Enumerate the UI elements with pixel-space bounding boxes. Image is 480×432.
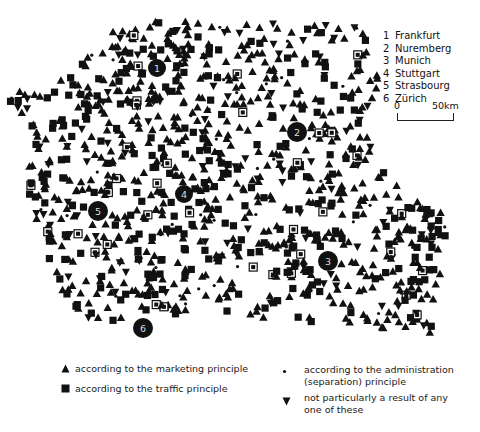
boxed-square-icon	[293, 159, 301, 167]
square-icon	[314, 278, 321, 285]
city-name-munich: Munich	[395, 55, 431, 68]
triangle-up-icon	[45, 156, 53, 164]
triangle-up-icon	[140, 169, 148, 177]
square-icon	[77, 250, 84, 257]
square-icon	[430, 266, 437, 273]
triangle-up-icon	[255, 120, 263, 128]
triangle-up-icon	[290, 50, 298, 58]
triangle-up-icon	[58, 134, 66, 142]
square-icon	[347, 94, 354, 101]
dot-icon	[282, 364, 304, 374]
square-icon	[206, 50, 213, 57]
square-icon	[292, 259, 299, 266]
triangle-up-icon	[211, 195, 219, 203]
square-icon	[395, 265, 402, 272]
triangle-up-icon	[202, 291, 210, 299]
triangle-up-icon	[100, 232, 108, 240]
triangle-down-icon	[122, 269, 130, 277]
triangle-down-icon	[327, 271, 335, 279]
triangle-up-icon	[224, 72, 232, 80]
legend-label: according to the marketing principle	[75, 363, 248, 375]
triangle-up-icon	[154, 112, 162, 120]
triangle-up-icon	[83, 234, 91, 242]
city-marker-strasbourg: 5	[88, 201, 108, 221]
triangle-up-icon	[80, 140, 88, 148]
square-icon	[105, 181, 112, 188]
dot-icon	[256, 167, 259, 170]
triangle-up-icon	[332, 274, 340, 282]
square-icon	[134, 247, 141, 254]
square-icon	[152, 164, 159, 171]
triangle-up-icon	[133, 112, 141, 120]
triangle-down-icon	[104, 89, 112, 97]
square-icon	[276, 226, 283, 233]
triangle-up-icon	[368, 283, 376, 291]
square-icon	[171, 213, 178, 220]
square-icon	[347, 309, 354, 316]
square-icon	[104, 160, 111, 167]
square-icon	[273, 268, 280, 275]
triangle-up-icon	[188, 154, 196, 162]
square-icon	[126, 49, 133, 56]
dot-icon	[39, 208, 42, 211]
triangle-up-icon	[279, 124, 287, 132]
dot-icon	[319, 180, 322, 183]
triangle-up-icon	[344, 281, 352, 289]
dot-icon	[411, 246, 414, 249]
triangle-up-icon	[226, 193, 234, 201]
square-icon	[382, 269, 389, 276]
city-key-row: 4Stuttgart	[383, 68, 451, 81]
square-icon	[295, 314, 302, 321]
square-icon	[289, 285, 296, 292]
triangle-up-icon	[368, 271, 376, 279]
square-icon	[362, 37, 369, 44]
square-icon	[426, 254, 433, 261]
triangle-up-icon	[158, 206, 166, 214]
square-icon	[355, 120, 362, 127]
square-icon	[277, 143, 284, 150]
triangle-down-icon	[83, 158, 91, 166]
square-icon	[46, 255, 53, 262]
triangle-down-icon	[104, 140, 112, 148]
square-icon	[284, 54, 291, 61]
square-icon	[118, 69, 125, 76]
square-icon	[304, 291, 311, 298]
square-icon	[241, 202, 248, 209]
triangle-down-icon	[223, 240, 231, 248]
triangle-up-icon	[290, 114, 298, 122]
square-icon	[201, 179, 208, 186]
city-name-strasbourg: Strasbourg	[395, 80, 450, 93]
triangle-up-icon	[258, 83, 266, 91]
triangle-up-icon	[338, 210, 346, 218]
triangle-up-icon	[233, 179, 241, 187]
square-icon	[321, 75, 328, 82]
square-icon	[158, 256, 165, 263]
dot-icon	[280, 76, 283, 79]
square-icon	[180, 69, 187, 76]
triangle-up-icon	[254, 147, 262, 155]
square-icon	[188, 221, 195, 228]
square-icon	[428, 222, 435, 229]
triangle-up-icon	[57, 214, 65, 222]
square-icon	[109, 317, 116, 324]
city-marker-zurich: 6	[133, 318, 153, 338]
square-icon	[207, 97, 214, 104]
square-icon	[117, 100, 124, 107]
triangle-down-icon	[64, 274, 72, 282]
triangle-up-icon	[283, 79, 291, 87]
triangle-up-icon	[103, 126, 111, 134]
dot-icon	[352, 220, 355, 223]
square-icon	[316, 288, 323, 295]
scale-end-label: 50km	[432, 100, 459, 111]
triangle-down-icon	[116, 35, 124, 43]
triangle-up-icon	[108, 211, 116, 219]
triangle-up-icon	[30, 90, 38, 98]
square-icon	[27, 179, 34, 186]
square-icon	[69, 202, 76, 209]
square-icon	[196, 147, 203, 154]
triangle-up-icon	[148, 82, 156, 90]
triangle-up-icon	[73, 186, 81, 194]
square-icon	[435, 217, 442, 224]
square-icon	[181, 272, 188, 279]
legend-item-marketing: according to the marketing principle	[61, 363, 248, 375]
